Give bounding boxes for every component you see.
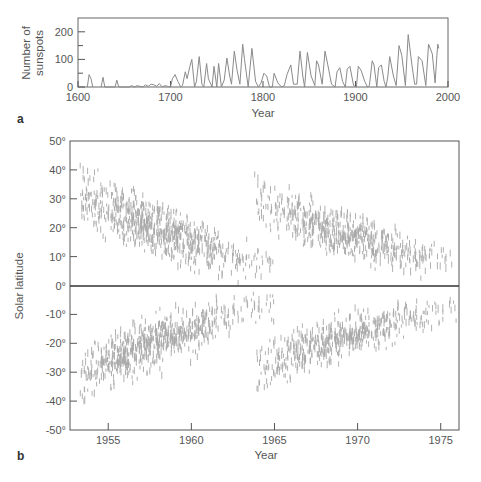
x-tick-label: 1960 bbox=[179, 434, 203, 446]
y-tick-label: -50° bbox=[46, 424, 66, 436]
y-axis-title-a-line2: sunspots bbox=[33, 30, 45, 76]
x-tick-label: 1900 bbox=[343, 91, 367, 103]
y-axis-title-a-line1: Number of bbox=[20, 25, 32, 79]
y-tick-label: 20° bbox=[49, 222, 66, 234]
y-tick-label: -10° bbox=[46, 308, 66, 320]
y-tick-label: 10° bbox=[49, 251, 66, 263]
y-tick-label: -40° bbox=[46, 395, 66, 407]
y-axis-title-b: Solar latitude bbox=[13, 252, 25, 319]
sunspot-number-chart: 0100200 16001700180019002000 Number of s… bbox=[17, 18, 460, 126]
x-axis-b: 19551960196519701975 bbox=[96, 423, 453, 446]
x-tick-label: 1600 bbox=[66, 91, 90, 103]
x-tick-label: 1975 bbox=[428, 434, 452, 446]
x-tick-label: 1955 bbox=[96, 434, 120, 446]
x-tick-label: 1700 bbox=[158, 91, 182, 103]
y-tick-label: 40° bbox=[49, 164, 66, 176]
x-tick-label: 1965 bbox=[262, 434, 286, 446]
sunspot-line bbox=[87, 35, 439, 87]
y-tick-label: 50° bbox=[49, 135, 66, 147]
sunspot-figure: 0100200 16001700180019002000 Number of s… bbox=[0, 0, 481, 482]
y-tick-label: 200 bbox=[55, 26, 73, 38]
y-tick-label: 100 bbox=[55, 53, 73, 65]
y-tick-label: 30° bbox=[49, 193, 66, 205]
y-tick-label: 0° bbox=[55, 280, 66, 292]
x-axis-a: 16001700180019002000 bbox=[66, 81, 460, 103]
sunspot-latitude-marks bbox=[80, 163, 456, 405]
x-tick-label: 1800 bbox=[251, 91, 275, 103]
y-axis-a: 0100200 bbox=[55, 26, 85, 93]
butterfly-diagram: 50°40°30°20°10°0°-10°-20°-30°-40°-50° 19… bbox=[13, 135, 459, 463]
x-tick-label: 1970 bbox=[345, 434, 369, 446]
panel-label-a: a bbox=[17, 112, 24, 126]
latitude-marks bbox=[80, 163, 456, 405]
panel-label-b: b bbox=[17, 449, 24, 463]
x-axis-title-b: Year bbox=[254, 449, 277, 461]
y-tick-label: -20° bbox=[46, 337, 66, 349]
x-axis-title-a: Year bbox=[251, 107, 274, 119]
x-tick-label: 2000 bbox=[436, 91, 460, 103]
y-tick-label: -30° bbox=[46, 366, 66, 378]
